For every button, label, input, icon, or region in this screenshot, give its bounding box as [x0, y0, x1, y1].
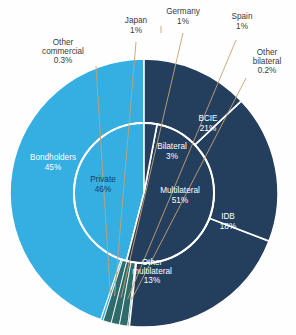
outer-slice-label: BCIE21% [198, 114, 218, 132]
pie-chart-container: Private46%Multilateral51%Bilateral3%Bond… [0, 0, 296, 335]
callout-label: Japan1% [125, 16, 148, 34]
callout-label: Spain1% [232, 12, 253, 30]
callout-label: Otherbilateral0.2% [253, 48, 282, 76]
callout-label: Othercommercial0.3% [42, 38, 84, 66]
nested-pie-chart: Private46%Multilateral51%Bilateral3%Bond… [0, 0, 296, 335]
outer-slice-label: IDB18% [220, 212, 236, 230]
callout-label: Germany1% [166, 7, 201, 25]
